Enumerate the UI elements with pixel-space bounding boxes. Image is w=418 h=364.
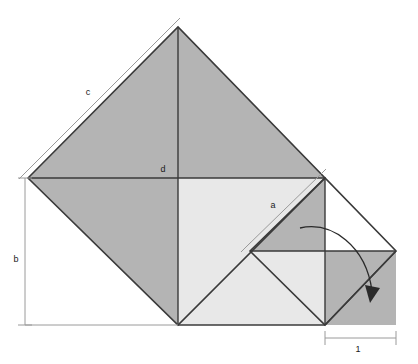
label-c: c bbox=[86, 87, 91, 97]
label-a: a bbox=[270, 200, 275, 210]
filled-regions bbox=[28, 27, 396, 325]
label-b: b bbox=[13, 254, 18, 264]
dimension-one bbox=[325, 331, 396, 345]
pythagoras-figure: c d a b 1 bbox=[0, 0, 418, 364]
diagram-canvas: c d a b 1 bbox=[0, 0, 418, 364]
label-one: 1 bbox=[355, 344, 360, 354]
label-d: d bbox=[160, 164, 165, 174]
